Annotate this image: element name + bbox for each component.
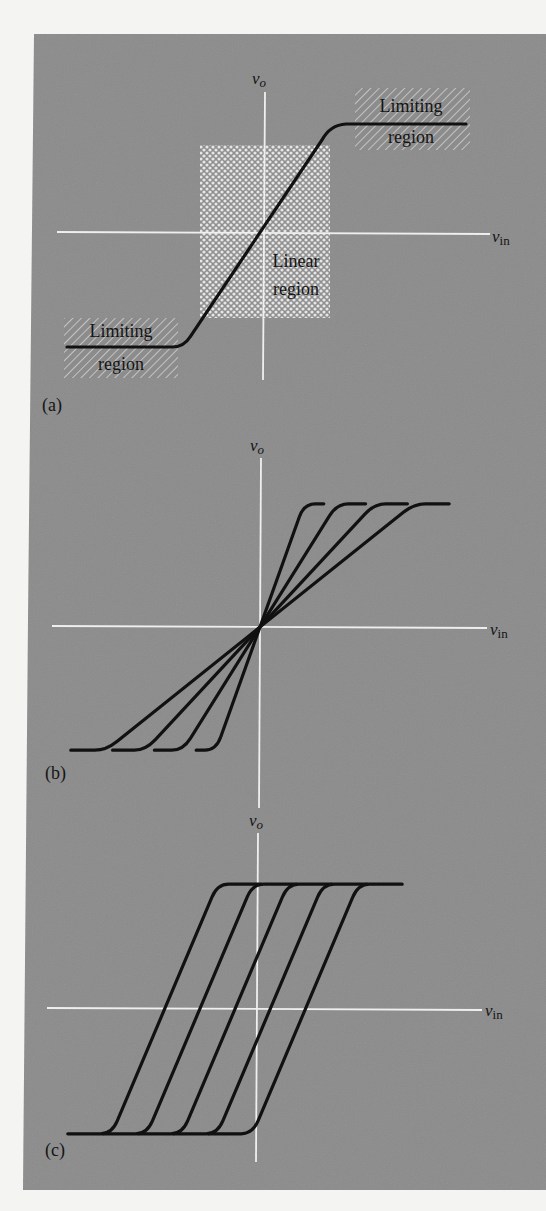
panel-label: (a) <box>42 395 62 416</box>
upper-limiting-label-line2: region <box>388 127 434 147</box>
lower-limiting-label-line1: Limiting <box>90 321 153 341</box>
panel-label: (c) <box>45 1140 65 1161</box>
lower-limiting-label-line2: region <box>98 354 144 374</box>
panel-label: (b) <box>45 763 66 784</box>
figure: vo vin Limiting region Linear region Lim… <box>0 0 546 1211</box>
linear-label-line2: region <box>273 279 319 299</box>
linear-label-line1: Linear <box>273 251 320 271</box>
upper-limiting-label-line1: Limiting <box>380 96 443 116</box>
